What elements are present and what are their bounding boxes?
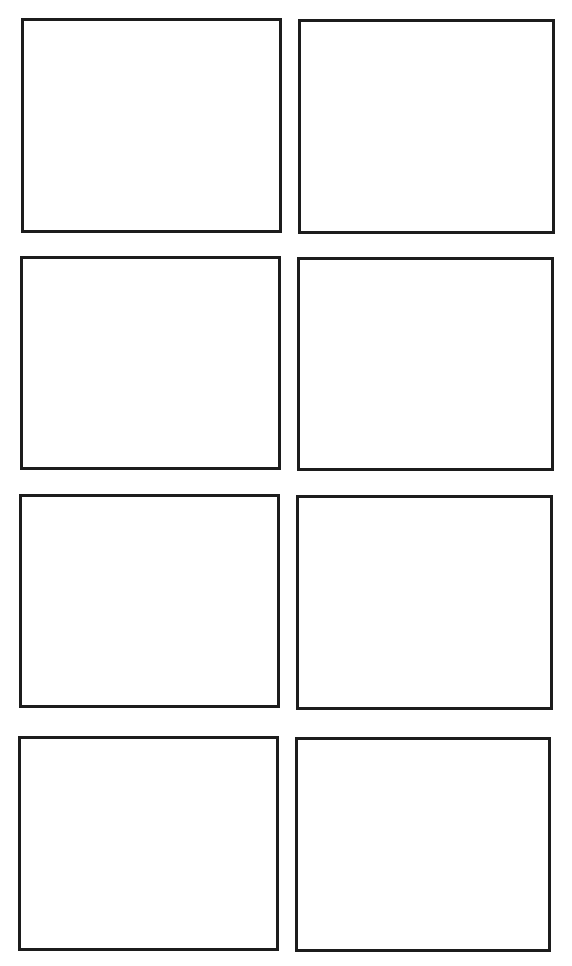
panel-row2-col1 — [20, 256, 281, 470]
panel-row4-col1 — [18, 736, 279, 951]
panel-row1-col1 — [21, 18, 282, 233]
panel-row2-col2 — [297, 257, 554, 471]
panel-row3-col2 — [296, 495, 553, 710]
panel-row1-col2 — [298, 19, 555, 234]
panel-grid-page — [0, 0, 572, 966]
panel-row4-col2 — [295, 737, 551, 952]
panel-row3-col1 — [19, 494, 280, 708]
